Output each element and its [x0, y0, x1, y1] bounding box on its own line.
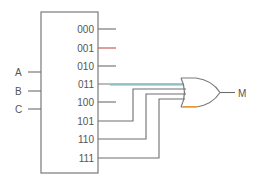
input-label-a: A [15, 67, 22, 78]
logic-diagram: A B C 000 001 010 011 100 101 110 111 M [0, 0, 260, 190]
input-a: A [15, 67, 41, 78]
wire-110-to-or [98, 94, 186, 139]
output-label-110: 110 [78, 134, 94, 145]
output-label-111: 111 [79, 153, 95, 164]
output-label-100: 100 [77, 97, 94, 108]
output-label-010: 010 [77, 61, 94, 72]
output-label-011: 011 [78, 79, 94, 90]
input-label-b: B [15, 86, 22, 97]
or-gate-bottom-curve [181, 93, 220, 108]
input-label-c: C [15, 104, 22, 115]
or-gate-top-curve [181, 78, 220, 93]
output-label-m: M [238, 88, 246, 99]
output-label-000: 000 [77, 24, 94, 35]
output-label-001: 001 [77, 43, 94, 54]
output-label-101: 101 [77, 116, 94, 127]
or-gate [181, 78, 220, 107]
wire-111-to-or [98, 99, 185, 158]
or-gate-back-curve [181, 78, 185, 107]
decoder-block [41, 12, 98, 173]
input-b: B [15, 86, 41, 97]
input-c: C [15, 104, 41, 115]
